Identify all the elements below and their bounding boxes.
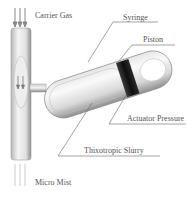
label-actuator-pressure: Actuator Pressure <box>127 114 184 123</box>
carrier-gas-arrows-icon <box>13 8 27 27</box>
vertical-gas-tube <box>11 28 31 160</box>
label-syringe: Syringe <box>123 13 148 22</box>
label-piston: Piston <box>143 35 163 44</box>
micro-mist-lines-icon <box>15 164 25 186</box>
label-carrier-gas: Carrier Gas <box>35 11 72 20</box>
micro-mist-diagram <box>0 0 196 198</box>
label-micro-mist: Micro Mist <box>35 178 71 187</box>
syringe-nozzle <box>30 84 46 92</box>
label-thixotropic-slurry: Thixotropic Slurry <box>84 146 144 155</box>
syringe-barrel <box>40 46 177 123</box>
